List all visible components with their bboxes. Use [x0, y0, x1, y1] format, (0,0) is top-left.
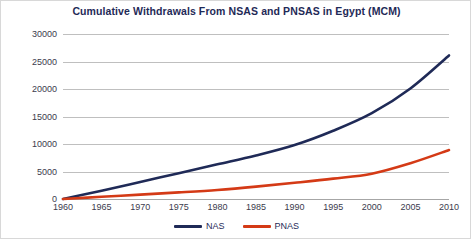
legend-label: PNAS [275, 221, 300, 231]
y-axis-tick-label: 0 [1, 194, 57, 204]
x-axis-tick-label: 1990 [285, 202, 305, 212]
y-axis-tick-label: 30000 [1, 29, 57, 39]
chart-container: Cumulative Withdrawals From NSAS and PNS… [0, 0, 471, 239]
y-axis-labels: 050001000015000200002500030000 [1, 34, 57, 199]
plot-area [63, 34, 449, 199]
x-axis-tick-label: 1960 [53, 202, 73, 212]
series-line-pnas [63, 150, 449, 199]
y-axis-tick-label: 20000 [1, 84, 57, 94]
legend-swatch-icon [243, 225, 271, 228]
legend-swatch-icon [174, 225, 202, 228]
legend-label: NAS [206, 221, 225, 231]
x-axis-tick-label: 1995 [323, 202, 343, 212]
x-axis-tick-label: 2010 [439, 202, 459, 212]
y-axis-tick-label: 10000 [1, 139, 57, 149]
x-axis-tick-label: 1985 [246, 202, 266, 212]
x-axis-labels: 1960196519701975198019851990199520002005… [63, 202, 449, 216]
gridline [63, 199, 449, 200]
chart-legend: NASPNAS [1, 221, 471, 231]
x-axis-tick-label: 1970 [130, 202, 150, 212]
series-line-nas [63, 55, 449, 199]
chart-title: Cumulative Withdrawals From NSAS and PNS… [1, 5, 471, 17]
y-axis-tick-label: 15000 [1, 112, 57, 122]
x-axis-tick-label: 1975 [169, 202, 189, 212]
legend-item-pnas[interactable]: PNAS [243, 221, 300, 231]
y-axis-tick-label: 5000 [1, 167, 57, 177]
legend-item-nas[interactable]: NAS [174, 221, 225, 231]
y-axis-tick-label: 25000 [1, 57, 57, 67]
x-axis-tick-label: 1980 [207, 202, 227, 212]
x-axis-tick-label: 2005 [400, 202, 420, 212]
series-lines [63, 34, 449, 199]
x-axis-tick-label: 1965 [92, 202, 112, 212]
x-axis-tick-label: 2000 [362, 202, 382, 212]
